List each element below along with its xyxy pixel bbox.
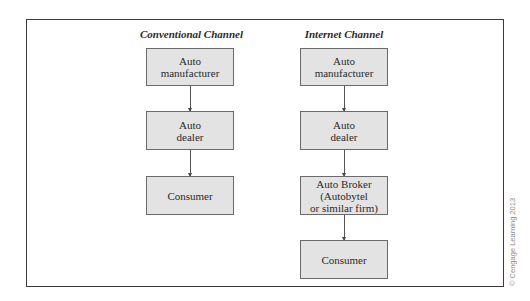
node-label: Auto dealer xyxy=(331,119,358,143)
node-label: Auto dealer xyxy=(177,119,204,143)
arrow-down-icon xyxy=(190,86,191,111)
node-label: Consumer xyxy=(167,190,212,202)
node-label: Consumer xyxy=(321,254,366,266)
internet-auto-manufacturer-box: Auto manufacturer xyxy=(300,48,388,86)
copyright-notice: © Cengage Learning 2013 xyxy=(508,198,517,286)
arrow-down-icon xyxy=(190,150,191,176)
internet-channel-title: Internet Channel xyxy=(294,28,394,40)
arrow-down-icon xyxy=(344,215,345,240)
diagram-frame xyxy=(26,19,504,287)
conventional-auto-dealer-box: Auto dealer xyxy=(146,111,234,150)
node-label: Auto manufacturer xyxy=(161,55,220,79)
arrow-down-icon xyxy=(344,86,345,111)
conventional-channel-title: Conventional Channel xyxy=(140,28,240,40)
node-label: Auto manufacturer xyxy=(315,55,374,79)
conventional-auto-manufacturer-box: Auto manufacturer xyxy=(146,48,234,86)
node-label: Auto Broker (Autobytel or similar firm) xyxy=(310,178,378,214)
internet-auto-broker-box: Auto Broker (Autobytel or similar firm) xyxy=(300,176,388,215)
conventional-consumer-box: Consumer xyxy=(146,176,234,215)
internet-auto-dealer-box: Auto dealer xyxy=(300,111,388,150)
arrow-down-icon xyxy=(344,150,345,176)
internet-consumer-box: Consumer xyxy=(300,240,388,279)
